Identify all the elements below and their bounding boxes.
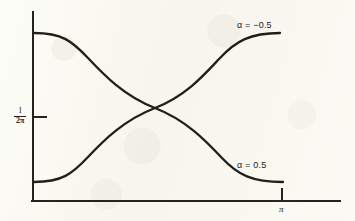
figure-container: 1 2π π α = −0.5 α = 0.5: [0, 0, 355, 221]
series-label-alpha-positive-0-5: α = 0.5: [237, 161, 266, 170]
plot-canvas: [0, 0, 355, 221]
fraction-numerator: 1: [16, 107, 24, 115]
fraction-denominator: 2π: [14, 117, 26, 125]
series-label-alpha-negative-0-5: α = −0.5: [237, 21, 272, 30]
y-axis-tick-label: 1 2π: [14, 107, 26, 126]
x-axis-tick-label: π: [279, 205, 284, 214]
